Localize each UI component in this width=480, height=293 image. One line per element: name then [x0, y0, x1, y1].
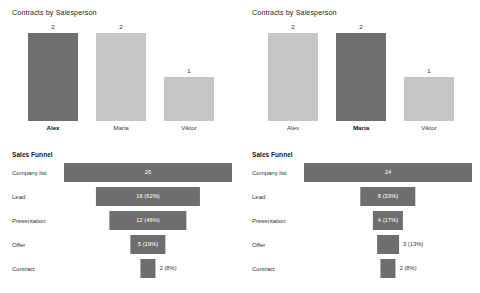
bar-category-label: Maria — [113, 125, 128, 131]
funnel-bar-value: 3 (13%) — [403, 242, 423, 248]
funnel-stage-row[interactable]: Contract 2 (8%) — [252, 259, 472, 278]
funnel-bar[interactable]: 24 — [304, 163, 472, 182]
funnel-stage-label: Lead — [252, 194, 304, 200]
funnel-stage-label: Presentation — [12, 218, 64, 224]
bar-category-label: Alex — [287, 125, 299, 131]
bar-chart-plot-left: 2 Alex 2 Maria 1 Viktor — [12, 23, 228, 131]
funnel-title: Sales Funnel — [12, 151, 232, 158]
funnel-panel-left: Sales Funnel Company list 26 Lead 16 (62… — [0, 145, 240, 293]
bar-column-viktor[interactable]: 1 Viktor — [164, 23, 214, 131]
funnel-track: 5 (19%) — [64, 235, 232, 254]
funnel-bar-value: 24 — [385, 170, 391, 176]
funnel-stage-row[interactable]: Lead 8 (33%) — [252, 187, 472, 206]
funnel-bar[interactable]: 2 (8%) — [140, 259, 155, 278]
bar-value-label: 2 — [359, 24, 362, 30]
bar-rect[interactable] — [28, 33, 78, 121]
funnel-row: Sales Funnel Company list 26 Lead 16 (62… — [0, 145, 480, 293]
funnel-stage-list: Company list 24 Lead 8 (33%) — [252, 163, 472, 278]
dashboard-page: Contracts by Salesperson 2 Alex 2 Maria … — [0, 0, 480, 293]
bar-value-label: 2 — [291, 24, 294, 30]
funnel-track: 2 (8%) — [64, 259, 232, 278]
funnel-stage-row[interactable]: Lead 16 (62%) — [12, 187, 232, 206]
funnel-stage-label: Company list — [12, 170, 64, 176]
funnel-panel-right: Sales Funnel Company list 24 Lead 8 (33%… — [240, 145, 480, 293]
funnel-track: 3 (13%) — [304, 235, 472, 254]
funnel-stage-label: Offer — [252, 242, 304, 248]
bar-column-alex[interactable]: 2 Alex — [28, 23, 78, 131]
bar-category-label: Alex — [46, 125, 59, 131]
funnel-bar[interactable]: 26 — [64, 163, 232, 182]
bar-column-maria[interactable]: 2 Maria — [336, 23, 386, 131]
funnel-bar-value: 2 (8%) — [160, 266, 177, 272]
funnel-bar[interactable]: 5 (19%) — [130, 235, 165, 254]
bar-chart-plot-right: 2 Alex 2 Maria 1 Viktor — [252, 23, 468, 131]
bar-column-alex[interactable]: 2 Alex — [268, 23, 318, 131]
funnel-track: 8 (33%) — [304, 187, 472, 206]
funnel-track: 26 — [64, 163, 232, 182]
bar-rect[interactable] — [336, 33, 386, 121]
funnel-stage-label: Lead — [12, 194, 64, 200]
funnel-stage-row[interactable]: Presentation 4 (17%) — [252, 211, 472, 230]
funnel-bar[interactable]: 4 (17%) — [373, 211, 403, 230]
funnel-track: 4 (17%) — [304, 211, 472, 230]
bar-value-label: 1 — [427, 68, 430, 74]
funnel-stage-label: Offer — [12, 242, 64, 248]
funnel-bar-value: 8 (33%) — [378, 194, 398, 200]
funnel-bar-value: 26 — [145, 170, 151, 176]
bar-value-label: 1 — [187, 68, 190, 74]
funnel-bar[interactable]: 3 (13%) — [377, 235, 399, 254]
funnel-track: 12 (46%) — [64, 211, 232, 230]
bar-chart-panel-left: Contracts by Salesperson 2 Alex 2 Maria … — [0, 0, 240, 145]
bar-rect[interactable] — [268, 33, 318, 121]
funnel-bar[interactable]: 12 (46%) — [109, 211, 186, 230]
page-title: Contracts by Salesperson — [252, 8, 468, 17]
funnel-track: 24 — [304, 163, 472, 182]
bar-category-label: Maria — [353, 125, 369, 131]
funnel-track: 2 (8%) — [304, 259, 472, 278]
bar-rect[interactable] — [404, 77, 454, 121]
funnel-stage-label: Presentation — [252, 218, 304, 224]
funnel-stage-row[interactable]: Offer 5 (19%) — [12, 235, 232, 254]
funnel-bar[interactable]: 8 (33%) — [360, 187, 415, 206]
bar-category-label: Viktor — [181, 125, 197, 131]
funnel-title: Sales Funnel — [252, 151, 472, 158]
bar-category-label: Viktor — [421, 125, 437, 131]
bar-rect[interactable] — [164, 77, 214, 121]
page-title: Contracts by Salesperson — [12, 8, 228, 17]
funnel-stage-label: Contract — [252, 266, 304, 272]
funnel-stage-row[interactable]: Contract 2 (8%) — [12, 259, 232, 278]
funnel-bar-value: 16 (62%) — [136, 194, 160, 200]
funnel-bar-value: 2 (8%) — [400, 266, 417, 272]
bar-value-label: 2 — [51, 24, 54, 30]
bar-chart-panel-right: Contracts by Salesperson 2 Alex 2 Maria … — [240, 0, 480, 145]
funnel-track: 16 (62%) — [64, 187, 232, 206]
funnel-stage-label: Contract — [12, 266, 64, 272]
funnel-stage-label: Company list — [252, 170, 304, 176]
funnel-bar-value: 5 (19%) — [138, 242, 158, 248]
funnel-stage-row[interactable]: Offer 3 (13%) — [252, 235, 472, 254]
funnel-bar[interactable]: 16 (62%) — [96, 187, 200, 206]
bar-rect[interactable] — [96, 33, 146, 121]
bar-chart-row: Contracts by Salesperson 2 Alex 2 Maria … — [0, 0, 480, 145]
funnel-bar[interactable]: 2 (8%) — [380, 259, 395, 278]
bar-column-viktor[interactable]: 1 Viktor — [404, 23, 454, 131]
funnel-stage-row[interactable]: Company list 26 — [12, 163, 232, 182]
bar-value-label: 2 — [119, 24, 122, 30]
funnel-bar-value: 4 (17%) — [378, 218, 398, 224]
funnel-stage-row[interactable]: Presentation 12 (46%) — [12, 211, 232, 230]
funnel-stage-row[interactable]: Company list 24 — [252, 163, 472, 182]
funnel-bar-value: 12 (46%) — [136, 218, 160, 224]
funnel-stage-list: Company list 26 Lead 16 (62%) — [12, 163, 232, 278]
bar-column-maria[interactable]: 2 Maria — [96, 23, 146, 131]
